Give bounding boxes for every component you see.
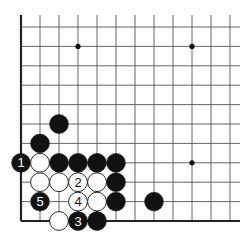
white-stone-icon [31,173,50,192]
black-stone [88,212,107,231]
white-stone [88,192,107,211]
white-stone-icon [88,192,107,211]
black-stone-icon [88,153,107,172]
star-point-icon [75,44,80,49]
white-stone-icon [88,173,107,192]
white-stone [50,212,69,231]
black-stone [107,192,126,211]
white-stone-icon [50,212,69,231]
black-stone [50,153,69,172]
black-stone [145,192,164,211]
black-stone-move-1: 1 [12,153,31,172]
white-stone-move-2: 2 [69,173,88,192]
black-stone-icon [50,115,69,134]
black-stone [50,115,69,134]
move-number-label: 5 [36,194,43,209]
move-number-label: 4 [74,194,81,209]
white-stone-icon [50,173,69,192]
black-stone-icon [107,173,126,192]
white-stone [31,153,50,172]
black-stone-icon [31,134,50,153]
star-point-icon [189,44,194,49]
black-stone-icon [145,192,164,211]
black-stone [88,153,107,172]
move-number-label: 1 [17,155,24,170]
white-stone [50,173,69,192]
star-point-icon [189,160,194,165]
black-stone-move-5: 5 [31,192,50,211]
black-stone [107,173,126,192]
white-stone-move-4: 4 [69,192,88,211]
white-stone-icon [31,153,50,172]
go-board: 12543 [0,0,247,241]
black-stone-icon [69,153,88,172]
black-stone [31,134,50,153]
move-number-label: 3 [74,214,81,229]
white-stone [88,173,107,192]
black-stone-icon [88,212,107,231]
stones-layer: 12543 [12,115,164,231]
black-stone-move-3: 3 [69,212,88,231]
black-stone-icon [107,192,126,211]
white-stone [31,173,50,192]
black-stone [107,153,126,172]
black-stone [69,153,88,172]
black-stone-icon [107,153,126,172]
black-stone-icon [50,153,69,172]
move-number-label: 2 [74,175,81,190]
